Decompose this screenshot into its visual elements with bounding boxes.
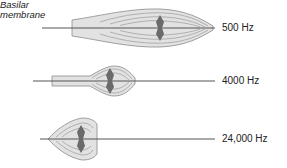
basilar-membrane-diagram: Basilar membrane [0, 0, 287, 168]
row-24000hz-envelope [40, 118, 215, 160]
frequency-label-500: 500 Hz [222, 22, 254, 33]
row-500hz-envelope [42, 9, 215, 47]
row-4000hz-envelope [33, 66, 215, 96]
frequency-label-4000: 4000 Hz [222, 75, 259, 86]
frequency-label-24000: 24,000 Hz [222, 133, 268, 144]
